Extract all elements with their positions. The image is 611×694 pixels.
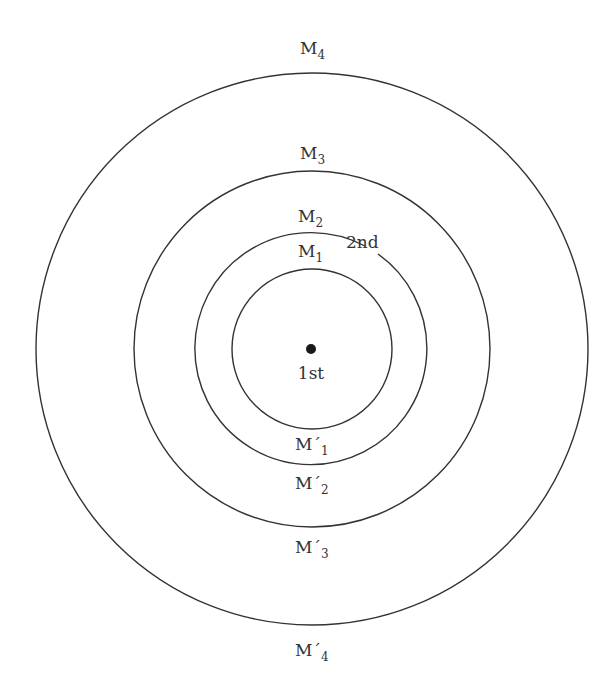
label-m2-bottom: M´2 [295,473,329,497]
label-m2-top: M2 [298,206,323,230]
center-dot [306,344,316,354]
center-label: 1st [298,363,325,383]
label-m4-bottom: M´4 [295,640,329,664]
label-m1-top: M1 [298,241,323,265]
concentric-rings-diagram: 1st M4 M3 M2 M1 2nd M´1 M´2 M´3 M´4 [0,0,611,694]
label-m3-bottom: M´3 [295,537,329,561]
label-m3-top: M3 [300,143,325,167]
label-m1-bottom: M´1 [295,434,329,458]
label-m4-top: M4 [300,38,325,62]
second-label: 2nd [346,232,379,252]
